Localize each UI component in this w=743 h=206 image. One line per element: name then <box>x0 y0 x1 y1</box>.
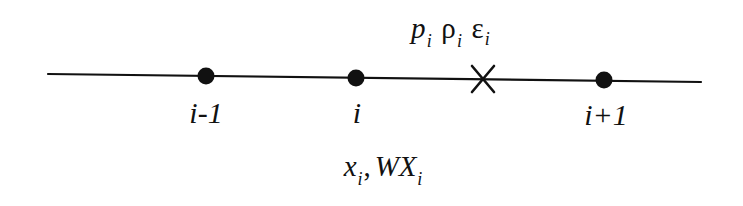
zone-quantities-label: piρiεi <box>411 14 490 43</box>
weighted-position-glyph: WX <box>375 150 417 182</box>
weighted-position-subscript: i <box>417 169 423 189</box>
node-label-i: i <box>353 98 361 128</box>
internal-energy-symbol: εi <box>471 14 490 43</box>
pressure-symbol: pi <box>411 14 432 43</box>
internal-energy-subscript: i <box>485 29 491 49</box>
pressure-glyph: p <box>411 12 426 44</box>
quantities-separator: , <box>362 152 374 181</box>
weighted-position-symbol: WXi <box>375 150 423 182</box>
node-marker-i <box>348 70 365 87</box>
pressure-subscript: i <box>427 31 433 51</box>
node-marker-i-minus-1 <box>198 68 215 85</box>
position-subscript: i <box>357 169 363 189</box>
stencil-figure: piρiεi i-1 i i+1 xi,WXi <box>0 0 743 206</box>
node-label-i-plus-1: i+1 <box>584 100 628 130</box>
node-label-i-minus-1: i-1 <box>189 98 222 128</box>
position-symbol: xi <box>344 150 363 182</box>
density-subscript: i <box>457 31 463 51</box>
position-glyph: x <box>344 150 357 182</box>
density-glyph: ρ <box>441 12 456 44</box>
density-symbol: ρi <box>441 14 462 43</box>
node-quantities-label: xi,WXi <box>344 152 422 181</box>
node-marker-i-plus-1 <box>596 72 613 89</box>
internal-energy-glyph: ε <box>471 12 484 44</box>
